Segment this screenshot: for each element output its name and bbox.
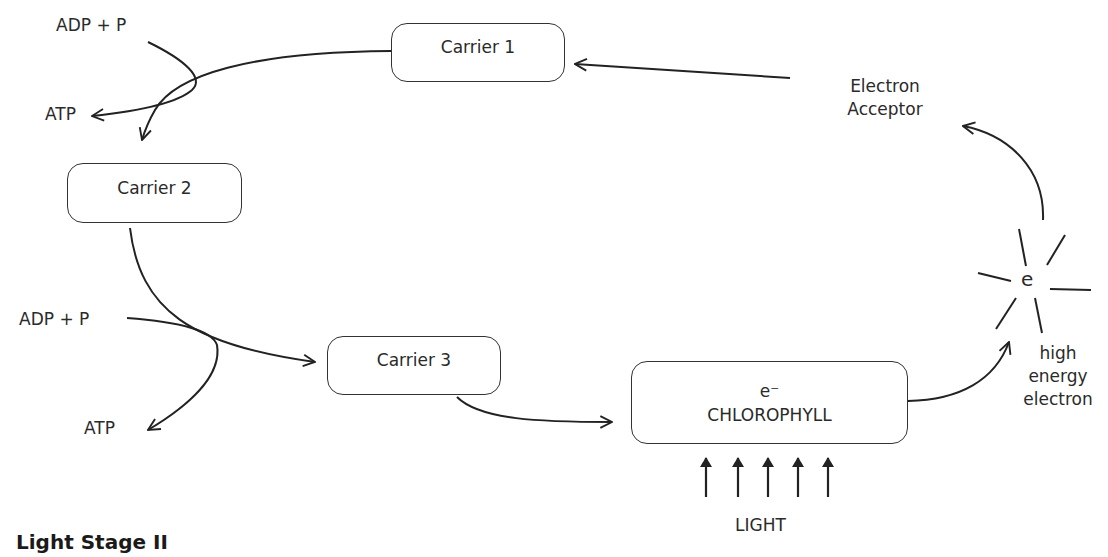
electron-acceptor-line1: Electron [830,75,940,98]
adp-p-label-top: ADP + P [56,15,126,35]
arrow-adp-to-atp-top [92,42,196,116]
arrow-chlorophyll-to-electron [908,342,1009,401]
carrier-1-label: Carrier 1 [441,37,515,57]
adp-p-label-bottom: ADP + P [19,309,89,329]
chlorophyll-box: e⁻ CHLOROPHYLL [631,361,908,444]
diagram-title: Light Stage II [16,530,168,554]
atp-label-bottom: ATP [84,418,115,438]
high-energy-line1: high [1010,342,1106,365]
arrow-carrier1-to-carrier2 [142,51,391,140]
arrow-electron-to-acceptor [963,126,1043,220]
connector-arrows [0,0,1108,557]
carrier-3-box: Carrier 3 [327,336,501,395]
light-arrows [706,458,828,497]
light-label: LIGHT [735,515,786,535]
high-energy-line3: electron [1010,388,1106,411]
electron-acceptor-line2: Acceptor [830,98,940,121]
carrier-3-label: Carrier 3 [377,350,451,370]
carrier-1-box: Carrier 1 [391,23,565,82]
arrow-adp-to-atp-bottom [127,318,218,430]
arrow-carrier2-to-carrier3 [130,228,315,362]
electron-burst-rays [978,229,1091,333]
electron-acceptor-label: Electron Acceptor [830,75,940,121]
chlorophyll-label: CHLOROPHYLL [707,403,831,427]
carrier-2-box: Carrier 2 [67,163,242,223]
high-energy-line2: energy [1010,365,1106,388]
chlorophyll-electron: e⁻ [760,379,779,403]
arrow-acceptor-to-carrier1 [575,64,790,78]
excited-electron-symbol: e [1021,267,1033,291]
high-energy-electron-label: high energy electron [1010,342,1106,411]
arrow-carrier3-to-chlorophyll [457,397,612,422]
carrier-2-label: Carrier 2 [117,178,191,198]
atp-label-top: ATP [45,104,76,124]
